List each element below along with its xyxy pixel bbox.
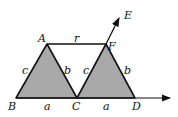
label-segment-cd: a (103, 100, 110, 113)
label-segment-ab: c (22, 64, 28, 77)
label-point-b: B (7, 100, 16, 113)
label-point-f: F (107, 40, 116, 53)
triangle-diagram: A B C D E F r c b c b a a (0, 0, 178, 117)
label-point-c: C (72, 100, 81, 113)
label-segment-bc: a (44, 100, 51, 113)
label-point-e: E (123, 9, 132, 22)
label-point-a: A (37, 32, 46, 45)
label-segment-ac: b (64, 64, 71, 77)
label-point-d: D (131, 100, 141, 113)
label-segment-fd: b (124, 64, 131, 77)
label-segment-fc: c (83, 64, 89, 77)
label-segment-af: r (74, 32, 80, 45)
